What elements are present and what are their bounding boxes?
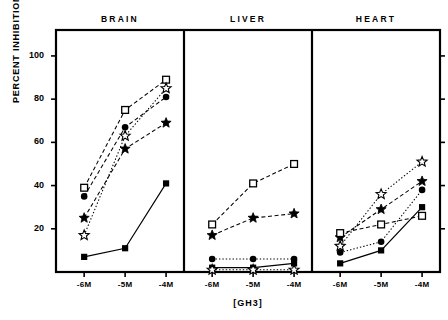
marker-filled-circle	[250, 256, 257, 263]
marker-filled-star	[79, 213, 89, 223]
marker-filled-star	[207, 230, 217, 240]
x-tick-label: -4M	[149, 280, 183, 289]
marker-open-square	[419, 212, 426, 219]
marker-filled-square	[163, 180, 169, 186]
plot-frame	[56, 30, 440, 272]
marker-filled-square	[419, 204, 425, 210]
y-tick-label: 60	[14, 136, 44, 146]
marker-filled-circle	[419, 187, 426, 194]
y-tick-label: 20	[14, 223, 44, 233]
marker-filled-star	[248, 213, 258, 223]
x-tick-label: -4M	[277, 280, 311, 289]
marker-filled-square	[122, 245, 128, 251]
marker-open-square	[81, 184, 88, 191]
y-tick-label: 100	[14, 50, 44, 60]
marker-filled-circle	[337, 249, 344, 256]
marker-open-star	[376, 189, 386, 199]
marker-filled-square	[378, 247, 384, 253]
x-axis-label: [GH3]	[218, 298, 278, 308]
marker-filled-circle	[122, 124, 129, 131]
marker-open-square	[337, 230, 344, 237]
marker-filled-circle	[209, 256, 216, 263]
x-tick-label: -5M	[236, 280, 270, 289]
y-tick-label: 40	[14, 180, 44, 190]
marker-filled-circle	[163, 94, 170, 101]
marker-filled-star	[376, 204, 386, 214]
marker-filled-square	[337, 260, 343, 266]
marker-filled-circle	[378, 238, 385, 245]
marker-filled-circle	[81, 193, 88, 200]
marker-open-star	[161, 83, 171, 93]
marker-filled-square	[81, 254, 87, 260]
y-tick-label: 80	[14, 93, 44, 103]
marker-filled-star	[161, 118, 171, 128]
marker-open-star	[417, 157, 427, 167]
x-tick-label: -4M	[405, 280, 439, 289]
x-tick-label: -5M	[108, 280, 142, 289]
marker-filled-star	[289, 208, 299, 218]
panel-title-brain: BRAIN	[56, 14, 184, 24]
x-tick-label: -6M	[323, 280, 357, 289]
x-tick-label: -6M	[195, 280, 229, 289]
figure: PERCENT INHIBITION 20406080100BRAIN-6M-5…	[0, 0, 448, 320]
marker-open-star	[79, 230, 89, 240]
marker-open-square	[209, 221, 216, 228]
series-line-filled-square	[340, 207, 422, 263]
panel-title-heart: HEART	[312, 14, 440, 24]
marker-open-square	[122, 107, 129, 114]
panel-title-liver: LIVER	[184, 14, 312, 24]
marker-open-square	[378, 221, 385, 228]
x-tick-label: -5M	[364, 280, 398, 289]
marker-open-square	[250, 180, 257, 187]
marker-open-square	[291, 161, 298, 168]
x-tick-label: -6M	[67, 280, 101, 289]
plot-canvas	[0, 0, 448, 320]
marker-filled-star	[120, 144, 130, 154]
